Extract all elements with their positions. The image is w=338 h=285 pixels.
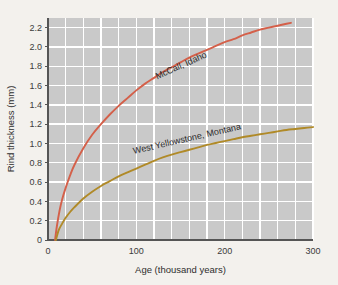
x-axis-title: Age (thousand years)	[135, 264, 226, 275]
y-tick-label: 0.4	[29, 197, 42, 207]
y-tick-label: 1.6	[29, 81, 42, 91]
y-tick-label: 1.2	[29, 119, 42, 129]
y-tick-label: 0.6	[29, 177, 42, 187]
y-tick-label: 1.0	[29, 139, 42, 149]
chart-figure: 00.20.40.60.81.01.21.41.61.82.02.2 01002…	[0, 0, 338, 285]
rind-thickness-line-chart: 00.20.40.60.81.01.21.41.61.82.02.2 01002…	[0, 0, 338, 285]
y-tick-label: 0.8	[29, 158, 42, 168]
x-tick-label: 100	[129, 246, 144, 256]
y-tick-label: 0.2	[29, 216, 42, 226]
y-tick-label: 1.4	[29, 100, 42, 110]
y-tick-label: 2.0	[29, 42, 42, 52]
y-tick-label: 1.8	[29, 61, 42, 71]
y-tick-label: 2.2	[29, 23, 42, 33]
y-tick-label: 0	[37, 235, 42, 245]
x-tick-label: 0	[45, 246, 50, 256]
x-tick-label: 300	[305, 246, 320, 256]
y-axis-title: Rind thickness (mm)	[5, 86, 16, 173]
x-tick-label: 200	[217, 246, 232, 256]
plot-area-background	[48, 18, 313, 240]
